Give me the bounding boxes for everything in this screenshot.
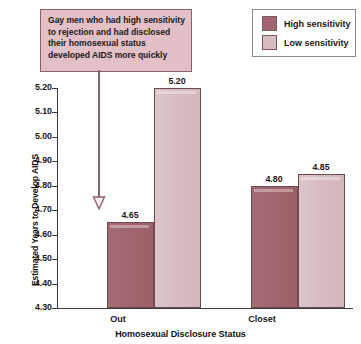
bar-value-closet-low-sensitivity: 4.85 — [299, 162, 343, 172]
bar-value-closet-high-sensitivity: 4.80 — [252, 174, 296, 184]
annotation-callout-text: Gay men who had high sensitivity to reje… — [48, 15, 188, 61]
y-axis-tick-labels: 5.20 5.10 5.00 4.90 4.80 4.70 4.60 4.50 … — [18, 88, 52, 309]
y-tick-label: 4.70 — [20, 204, 52, 214]
bar-out-low-sensitivity[interactable] — [154, 88, 201, 308]
y-tick-label: 4.40 — [20, 278, 52, 288]
legend-swatch-low-sensitivity — [262, 35, 277, 50]
y-axis-title-wrapper: Estimated Years to Develop AIDS — [0, 120, 18, 280]
x-category-label-out: Out — [78, 314, 158, 324]
x-category-label-closet: Closet — [222, 314, 302, 324]
legend-item-high-sensitivity: High sensitivity — [262, 16, 351, 31]
bar-value-out-high-sensitivity: 4.65 — [108, 210, 152, 220]
legend-item-low-sensitivity: Low sensitivity — [262, 35, 349, 50]
y-tick-mark — [52, 308, 58, 309]
plot-area: 4.65 5.20 4.80 4.85 — [58, 88, 352, 308]
bar-closet-high-sensitivity[interactable] — [251, 186, 298, 308]
bar-out-high-sensitivity[interactable] — [107, 222, 154, 308]
bar-closet-low-sensitivity[interactable] — [298, 174, 345, 308]
y-tick-label: 4.90 — [20, 155, 52, 165]
bar-value-out-low-sensitivity: 5.20 — [155, 76, 199, 86]
x-axis-title: Homosexual Disclosure Status — [0, 329, 361, 339]
y-tick-label: 5.10 — [20, 106, 52, 116]
y-tick-label: 5.20 — [20, 82, 52, 92]
bar-chart: Gay men who had high sensitivity to reje… — [0, 0, 361, 344]
x-axis-line — [57, 308, 353, 309]
legend: High sensitivity Low sensitivity — [252, 9, 356, 57]
y-tick-label: 4.60 — [20, 229, 52, 239]
y-tick-label: 4.80 — [20, 180, 52, 190]
y-tick-label: 4.50 — [20, 253, 52, 263]
annotation-callout-box: Gay men who had high sensitivity to reje… — [40, 9, 192, 72]
legend-label-low-sensitivity: Low sensitivity — [284, 38, 349, 48]
y-tick-label: 4.30 — [20, 302, 52, 312]
legend-label-high-sensitivity: High sensitivity — [284, 19, 351, 29]
y-tick-label: 5.00 — [20, 131, 52, 141]
legend-swatch-high-sensitivity — [262, 16, 277, 31]
